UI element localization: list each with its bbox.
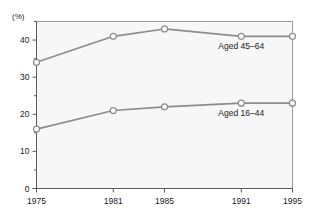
data-point-marker (162, 26, 168, 32)
data-point-marker (290, 100, 296, 106)
series-inline-label: Aged 45–64 (218, 41, 264, 51)
x-tick-label: 1985 (155, 196, 174, 206)
data-point-marker (110, 108, 116, 114)
line-chart: (%) 010203040 19751981198519911995 Aged … (0, 0, 315, 218)
y-tick-label: 0 (25, 184, 30, 194)
y-tick-label: 30 (20, 72, 30, 82)
data-point-marker (110, 33, 116, 39)
x-tick-label: 1991 (232, 196, 251, 206)
data-point-marker (238, 33, 244, 39)
data-point-marker (238, 100, 244, 106)
y-axis-unit-label: (%) (12, 12, 25, 21)
series-inline-label: Aged 16–44 (218, 108, 264, 118)
data-point-marker (34, 126, 40, 132)
x-tick-label: 1981 (104, 196, 123, 206)
y-tick-label: 40 (20, 35, 30, 45)
y-tick-label: 20 (20, 109, 30, 119)
data-point-marker (290, 33, 296, 39)
data-point-marker (34, 59, 40, 65)
x-tick-label: 1995 (283, 196, 302, 206)
y-tick-label: 10 (20, 146, 30, 156)
x-tick-label: 1975 (27, 196, 46, 206)
data-point-marker (162, 104, 168, 110)
chart-container: (%) 010203040 19751981198519911995 Aged … (0, 0, 315, 218)
